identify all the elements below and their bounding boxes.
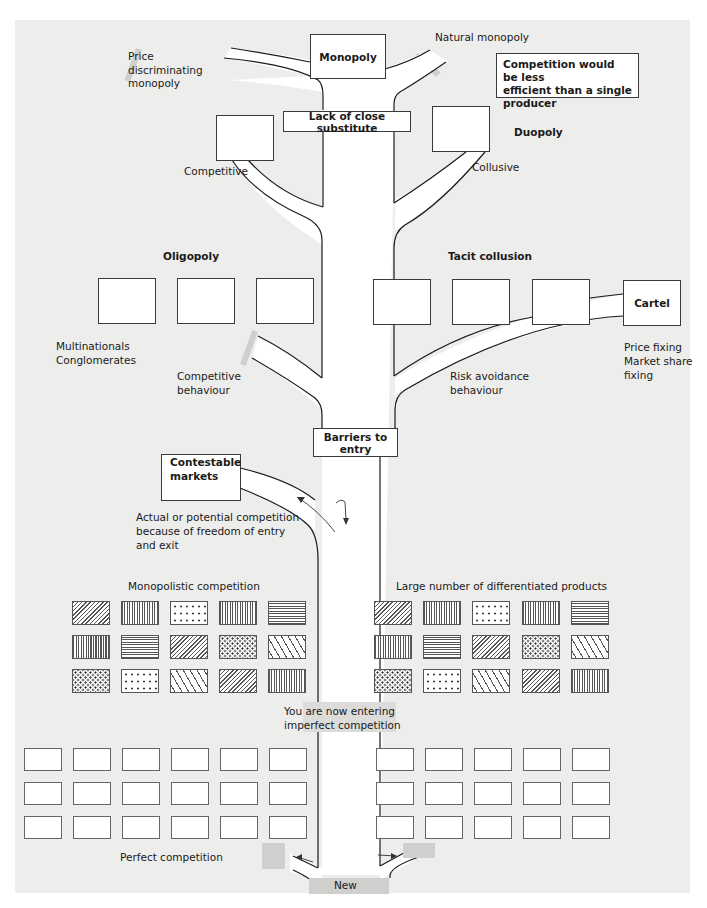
oligopoly-firm-box	[98, 278, 156, 324]
firm-cell	[269, 748, 307, 771]
firm-cell	[122, 816, 160, 839]
firm-cell	[474, 816, 512, 839]
firm-cell	[171, 782, 209, 805]
product-pattern-cell	[268, 669, 306, 693]
product-pattern-cell	[472, 601, 510, 625]
product-pattern-cell	[571, 635, 609, 659]
product-pattern-cell	[170, 669, 208, 693]
natural-monopoly-label: Natural monopoly	[435, 31, 529, 44]
firm-cell	[24, 816, 62, 839]
contestable-note: Actual or potential competition because …	[136, 510, 299, 552]
product-pattern-cell	[522, 601, 560, 625]
firm-cell	[171, 816, 209, 839]
duopoly-collusive-box	[432, 106, 490, 152]
collusive-label: Collusive	[472, 161, 519, 174]
new-entry-left-tag	[262, 843, 285, 869]
firm-cell	[269, 782, 307, 805]
firm-cell	[523, 816, 561, 839]
imperfect-competition-label: You are now entering imperfect competiti…	[284, 704, 401, 732]
product-pattern-cell	[522, 635, 560, 659]
firm-cell	[73, 816, 111, 839]
price-discriminating-label: Price discriminating monopoly	[128, 50, 203, 91]
tacit-collusion-firm-box	[532, 279, 590, 325]
product-pattern-cell	[374, 669, 412, 693]
firm-cell	[572, 816, 610, 839]
natural-monopoly-reason-box: Competition would be less efficient than…	[496, 53, 639, 98]
tacit-collusion-title: Tacit collusion	[448, 250, 532, 263]
firm-cell	[376, 782, 414, 805]
product-pattern-cell	[170, 635, 208, 659]
product-pattern-cell	[170, 601, 208, 625]
product-pattern-cell	[522, 669, 560, 693]
firm-cell	[122, 782, 160, 805]
product-pattern-cell	[72, 669, 110, 693]
firm-cell	[425, 782, 463, 805]
cartel-notes: Price fixing Market share fixing	[624, 340, 693, 382]
differentiated-products-label: Large number of differentiated products	[396, 580, 607, 593]
product-pattern-cell	[472, 669, 510, 693]
product-pattern-cell	[571, 601, 609, 625]
product-pattern-cell	[423, 601, 461, 625]
duopoly-title: Duopoly	[514, 126, 563, 139]
product-pattern-cell	[72, 635, 110, 659]
firm-cell	[425, 816, 463, 839]
firm-cell	[220, 748, 258, 771]
perfect-competition-label: Perfect competition	[120, 851, 223, 864]
duopoly-competitive-box	[216, 115, 274, 161]
firm-cell	[376, 748, 414, 771]
firm-cell	[523, 748, 561, 771]
firm-cell	[376, 816, 414, 839]
firm-cell	[572, 748, 610, 771]
product-pattern-cell	[268, 635, 306, 659]
product-pattern-cell	[121, 669, 159, 693]
product-pattern-cell	[472, 635, 510, 659]
product-pattern-cell	[571, 669, 609, 693]
firm-cell	[73, 782, 111, 805]
cartel-box: Cartel	[623, 280, 681, 326]
monopoly-label: Monopoly	[319, 51, 377, 63]
product-pattern-cell	[121, 601, 159, 625]
firm-cell	[73, 748, 111, 771]
oligopoly-firm-box	[256, 278, 314, 324]
firm-cell	[474, 748, 512, 771]
product-pattern-cell	[121, 635, 159, 659]
barriers-to-entry-box: Barriers to entry	[313, 428, 398, 457]
firm-cell	[269, 816, 307, 839]
firm-cell	[474, 782, 512, 805]
product-pattern-cell	[219, 669, 257, 693]
product-pattern-cell	[219, 635, 257, 659]
firm-cell	[171, 748, 209, 771]
oligopoly-title: Oligopoly	[163, 250, 219, 263]
monopolistic-competition-label: Monopolistic competition	[128, 580, 260, 593]
firm-cell	[122, 748, 160, 771]
contestable-markets-box: Contestable markets	[161, 454, 241, 501]
firm-cell	[523, 782, 561, 805]
product-pattern-cell	[423, 635, 461, 659]
tacit-collusion-firm-box	[373, 279, 431, 325]
monopoly-box: Monopoly	[310, 34, 386, 79]
new-entry-label: New	[334, 879, 357, 892]
product-pattern-cell	[374, 601, 412, 625]
product-pattern-cell	[219, 601, 257, 625]
firm-cell	[24, 748, 62, 771]
firm-cell	[24, 782, 62, 805]
risk-avoidance-label: Risk avoidance behaviour	[450, 369, 529, 397]
multinationals-label: Multinationals Conglomerates	[56, 339, 136, 367]
oligopoly-firm-box	[177, 278, 235, 324]
tacit-collusion-firm-box	[452, 279, 510, 325]
firm-cell	[220, 816, 258, 839]
competitive-label: Competitive	[184, 165, 248, 178]
firm-cell	[425, 748, 463, 771]
product-pattern-cell	[72, 601, 110, 625]
product-pattern-cell	[423, 669, 461, 693]
product-pattern-cell	[268, 601, 306, 625]
product-pattern-cell	[374, 635, 412, 659]
new-entry-right-tag	[403, 843, 435, 858]
competitive-behaviour-label: Competitive behaviour	[177, 369, 241, 397]
lack-of-close-substitute-box: Lack of close substitute	[283, 111, 411, 132]
firm-cell	[572, 782, 610, 805]
firm-cell	[220, 782, 258, 805]
